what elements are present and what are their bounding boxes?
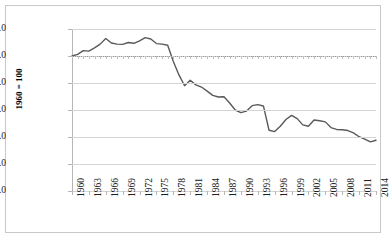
- minor-tick-hatch: [89, 56, 90, 59]
- x-tick-label: 2014: [380, 178, 390, 197]
- minor-tick-hatch: [258, 56, 259, 59]
- y-gridline: [72, 164, 376, 165]
- y-gridline: [72, 137, 376, 138]
- x-tick-label: 2005: [329, 178, 339, 197]
- x-tick-label: 1981: [194, 178, 204, 197]
- y-tick-mark: [68, 137, 72, 138]
- x-tick-label: 1993: [262, 178, 272, 197]
- minor-tick-hatch: [376, 56, 377, 59]
- x-tick-mark: [106, 191, 107, 195]
- y-gridline: [72, 110, 376, 111]
- minor-tick-hatch: [292, 56, 293, 59]
- minor-tick-hatch: [173, 56, 174, 59]
- minor-tick-hatch: [117, 56, 118, 59]
- minor-tick-hatch: [190, 56, 191, 59]
- x-tick-label: 1975: [160, 178, 170, 197]
- minor-tick-hatch: [100, 56, 101, 59]
- x-tick-label: 1960: [76, 178, 86, 197]
- y-axis-title: 1960 = 100: [14, 54, 24, 124]
- x-tick-mark: [140, 191, 141, 195]
- minor-tick-hatch: [168, 56, 169, 59]
- x-tick-label: 1990: [245, 178, 255, 197]
- y-tick-mark: [68, 29, 72, 30]
- y-gridline: [72, 29, 376, 30]
- x-tick-mark: [376, 191, 377, 195]
- minor-tick-hatch: [337, 56, 338, 59]
- plot-wrapper: 1960196319661969197219751978198119841987…: [72, 29, 376, 191]
- x-tick-mark: [123, 191, 124, 195]
- x-tick-label: 1984: [211, 178, 221, 197]
- minor-tick-hatch: [218, 56, 219, 59]
- x-tick-mark: [325, 191, 326, 195]
- minor-tick-hatch: [224, 56, 225, 59]
- minor-tick-hatch: [196, 56, 197, 59]
- minor-tick-hatch: [320, 56, 321, 59]
- minor-tick-hatch: [134, 56, 135, 59]
- minor-tick-hatch: [83, 56, 84, 59]
- minor-tick-hatch: [151, 56, 152, 59]
- y-tick-label: 110.0: [0, 23, 6, 33]
- minor-tick-hatch: [342, 56, 343, 59]
- x-tick-label: 1963: [93, 178, 103, 197]
- y-tick-mark: [68, 164, 72, 165]
- minor-tick-hatch: [247, 56, 248, 59]
- y-tick-label: 90.0: [0, 77, 6, 87]
- minor-tick-hatch: [123, 56, 124, 59]
- x-tick-mark: [156, 191, 157, 195]
- minor-tick-hatch: [156, 56, 157, 59]
- minor-tick-hatch: [348, 56, 349, 59]
- y-tick-label: 70.0: [0, 131, 6, 141]
- minor-tick-hatch: [308, 56, 309, 59]
- minor-tick-hatch: [331, 56, 332, 59]
- minor-tick-hatch: [179, 56, 180, 59]
- minor-tick-hatch: [325, 56, 326, 59]
- x-tick-mark: [275, 191, 276, 195]
- minor-tick-hatch: [297, 56, 298, 59]
- minor-tick-hatch: [235, 56, 236, 59]
- minor-tick-hatch: [252, 56, 253, 59]
- x-tick-label: 1972: [144, 178, 154, 197]
- minor-tick-hatch: [230, 56, 231, 59]
- x-tick-mark: [308, 191, 309, 195]
- minor-tick-hatch: [314, 56, 315, 59]
- minor-tick-hatch: [286, 56, 287, 59]
- minor-tick-hatch: [207, 56, 208, 59]
- minor-tick-hatch: [241, 56, 242, 59]
- minor-tick-hatch: [78, 56, 79, 59]
- x-tick-label: 1978: [177, 178, 187, 197]
- x-tick-mark: [173, 191, 174, 195]
- minor-tick-hatch: [128, 56, 129, 59]
- x-tick-mark: [72, 191, 73, 195]
- line-series-path: [72, 38, 376, 142]
- y-gridline: [72, 83, 376, 84]
- minor-tick-hatch: [365, 56, 366, 59]
- minor-tick-hatch: [353, 56, 354, 59]
- y-tick-label: 80.0: [0, 104, 6, 114]
- x-tick-mark: [89, 191, 90, 195]
- minor-tick-hatch: [185, 56, 186, 59]
- y-tick-label: 100.0: [0, 50, 6, 60]
- x-tick-mark: [241, 191, 242, 195]
- minor-tick-hatch: [275, 56, 276, 59]
- x-tick-mark: [224, 191, 225, 195]
- minor-tick-hatch: [269, 56, 270, 59]
- minor-tick-hatch: [145, 56, 146, 59]
- minor-tick-hatch: [201, 56, 202, 59]
- x-tick-label: 1966: [110, 178, 120, 197]
- x-tick-label: 1996: [279, 178, 289, 197]
- minor-tick-hatch: [263, 56, 264, 59]
- x-tick-mark: [190, 191, 191, 195]
- x-tick-label: 2008: [346, 178, 356, 197]
- minor-tick-hatch: [72, 56, 73, 59]
- chart-outer-frame: 1960 = 100 19601963196619691972197519781…: [5, 5, 381, 233]
- minor-tick-hatch: [106, 56, 107, 59]
- x-tick-label: 2011: [363, 178, 373, 197]
- x-tick-label: 1999: [296, 178, 306, 197]
- minor-tick-hatch: [95, 56, 96, 59]
- minor-tick-hatch: [111, 56, 112, 59]
- minor-tick-hatch: [213, 56, 214, 59]
- x-tick-mark: [359, 191, 360, 195]
- y-tick-label: 60.0: [0, 158, 6, 168]
- x-tick-mark: [207, 191, 208, 195]
